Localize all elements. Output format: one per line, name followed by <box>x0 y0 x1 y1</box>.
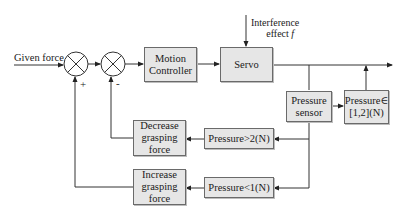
servo-label: Servo <box>234 59 259 71</box>
increase-line1: Increase <box>141 169 177 181</box>
motion-controller-block: Motion Controller <box>144 47 197 82</box>
pressure-sensor-line1: Pressure <box>291 95 327 107</box>
pressure-sensor-line2: sensor <box>291 107 327 119</box>
disturbance-line2: effect f <box>251 28 299 39</box>
pressure-gt2-label: Pressure>2(N) <box>208 133 269 145</box>
input-label-given-force: Given force <box>14 52 64 64</box>
pressure-gt2-block: Pressure>2(N) <box>204 128 274 149</box>
disturbance-line1: Interference <box>251 17 299 28</box>
pressure-lt1-label: Pressure<1(N) <box>208 182 269 194</box>
pressure-in-range-line2: [1,2](N) <box>345 107 388 119</box>
disturbance-symbol: f <box>291 28 294 39</box>
decrease-line1: Decrease <box>140 120 178 132</box>
motion-controller-line2: Controller <box>149 65 192 77</box>
increase-line3: force <box>141 193 177 205</box>
decrease-line2: grasping <box>140 132 178 144</box>
pressure-in-range-line1: Pressure∈ <box>345 95 388 107</box>
pressure-lt1-block: Pressure<1(N) <box>204 177 274 198</box>
servo-block: Servo <box>220 47 273 82</box>
pressure-sensor-block: Pressure sensor <box>286 91 332 122</box>
increase-line2: grasping <box>141 181 177 193</box>
pressure-in-range-block: Pressure∈ [1,2](N) <box>344 90 389 124</box>
increase-grasping-force-block: Increase grasping force <box>133 169 186 205</box>
decrease-line3: force <box>140 144 178 156</box>
decrease-grasping-force-block: Decrease grasping force <box>133 120 186 156</box>
sum2-feedback-sign: - <box>116 78 120 89</box>
disturbance-text: effect <box>266 28 291 39</box>
sum1-feedback-sign: + <box>80 79 86 90</box>
disturbance-label: Interference effect f <box>251 17 299 39</box>
motion-controller-line1: Motion <box>149 53 192 65</box>
